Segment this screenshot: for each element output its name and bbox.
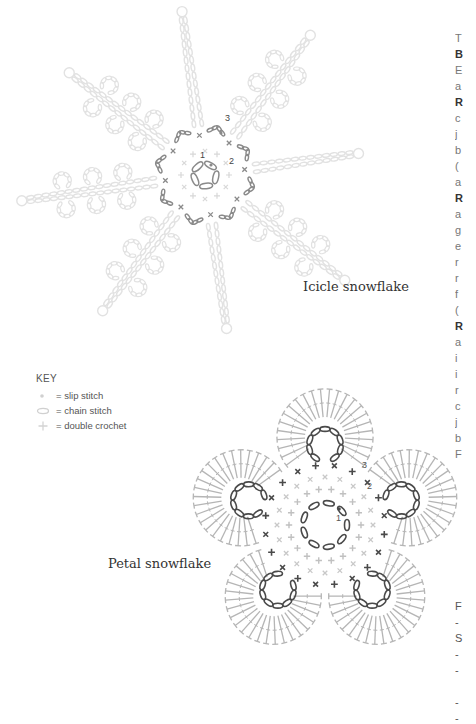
text-fragment: b xyxy=(455,430,476,446)
key-title: KEY xyxy=(36,373,127,384)
petal-caption: Petal snowflake xyxy=(108,556,211,571)
text-fragment: c xyxy=(455,398,476,414)
svg-text:2: 2 xyxy=(229,156,234,166)
text-fragment: - xyxy=(455,646,476,662)
chain-stitch-icon xyxy=(36,405,52,417)
text-fragment: F xyxy=(455,598,476,614)
text-fragment: i xyxy=(455,350,476,366)
icicle-caption: Icicle snowflake xyxy=(303,279,409,294)
text-fragment: S xyxy=(455,630,476,646)
text-fragment: a xyxy=(455,174,476,190)
key-item-chain-stitch: = chain stitch xyxy=(36,403,127,418)
text-fragment: - xyxy=(455,614,476,630)
text-fragment: ( xyxy=(455,158,476,174)
slip-stitch-icon xyxy=(36,390,52,402)
text-fragment: a xyxy=(455,206,476,222)
text-fragment: - xyxy=(455,694,476,710)
text-fragment: j xyxy=(455,414,476,430)
text-fragment: r xyxy=(455,382,476,398)
text-fragment: R xyxy=(455,190,476,206)
cropped-instructions-text: TBEaRcjb(aRagerrf(RaiircjbF xyxy=(455,30,476,462)
text-fragment: r xyxy=(455,270,476,286)
text-fragment: B xyxy=(455,46,476,62)
svg-text:1: 1 xyxy=(200,150,205,160)
text-fragment xyxy=(455,678,476,694)
text-fragment: g xyxy=(455,222,476,238)
text-fragment: f xyxy=(455,286,476,302)
svg-text:2: 2 xyxy=(367,481,372,491)
text-fragment: c xyxy=(455,110,476,126)
text-fragment: R xyxy=(455,318,476,334)
text-fragment: - xyxy=(455,710,476,724)
key-item-slip-stitch: = slip stitch xyxy=(36,388,127,403)
text-fragment: T xyxy=(455,30,476,46)
text-fragment: j xyxy=(455,126,476,142)
text-fragment: b xyxy=(455,142,476,158)
text-fragment: a xyxy=(455,78,476,94)
svg-text:3: 3 xyxy=(362,460,367,470)
key-label: = slip stitch xyxy=(56,390,103,401)
text-fragment: - xyxy=(455,662,476,678)
text-fragment: i xyxy=(455,366,476,382)
text-fragment: r xyxy=(455,254,476,270)
text-fragment: R xyxy=(455,94,476,110)
double-crochet-icon xyxy=(36,420,52,432)
key-label: = chain stitch xyxy=(56,405,112,416)
svg-text:3: 3 xyxy=(225,113,230,123)
cropped-instructions-text-lower: F-S---- xyxy=(455,598,476,724)
svg-text:1: 1 xyxy=(336,513,341,523)
petal-snowflake-diagram: 123 xyxy=(193,389,457,644)
key-item-double-crochet: = double crochet xyxy=(36,418,127,433)
stitch-key: KEY = slip stitch = chain stitch = doubl… xyxy=(36,373,127,433)
text-fragment: E xyxy=(455,62,476,78)
text-fragment: e xyxy=(455,238,476,254)
key-label: = double crochet xyxy=(56,420,127,431)
text-fragment: a xyxy=(455,334,476,350)
text-fragment: F xyxy=(455,446,476,462)
text-fragment: ( xyxy=(455,302,476,318)
